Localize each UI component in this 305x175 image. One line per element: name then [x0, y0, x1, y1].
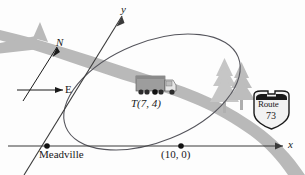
east-label: E: [65, 83, 72, 95]
y-axis-label: y: [121, 3, 126, 15]
east-arrowhead: [55, 87, 63, 93]
figure-canvas: y x N E Meadville T(7, 4) (10, 0) Route …: [0, 0, 305, 175]
route-sign-top-label: Route: [258, 99, 279, 109]
north-arrow: [23, 47, 60, 101]
label-meadville: Meadville: [39, 148, 84, 160]
label-truck-position: T(7, 4): [131, 97, 161, 109]
east-arrow: [17, 87, 63, 93]
label-x-intercept: (10, 0): [161, 148, 190, 160]
x-axis-label: x: [288, 138, 293, 150]
north-label: N: [56, 36, 63, 48]
point-truck: [152, 89, 158, 95]
route-sign-number-label: 73: [266, 110, 276, 121]
